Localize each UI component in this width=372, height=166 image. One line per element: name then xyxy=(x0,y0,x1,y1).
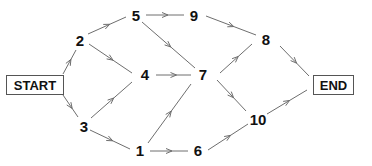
node-2: 2 xyxy=(76,32,84,49)
edge-6-to-10 xyxy=(208,124,248,150)
edges-layer xyxy=(63,13,309,154)
edge-line xyxy=(91,82,132,118)
edge-line xyxy=(148,84,191,143)
edge-1-to-6 xyxy=(150,149,188,154)
edge-7-to-10 xyxy=(217,80,246,111)
edge-5-to-7 xyxy=(142,22,195,68)
edge-8-to-end xyxy=(280,46,309,76)
edge-4-to-7 xyxy=(156,73,191,78)
edge-3-to-4 xyxy=(91,82,132,118)
end-node: END xyxy=(314,76,354,95)
node-4: 4 xyxy=(141,66,150,83)
edge-2-to-4 xyxy=(89,44,132,73)
edge-line xyxy=(90,130,130,149)
node-9: 9 xyxy=(190,7,198,24)
edge-line xyxy=(63,95,78,117)
edge-7-to-8 xyxy=(220,44,252,73)
node-8: 8 xyxy=(262,31,270,48)
node-3: 3 xyxy=(80,118,88,135)
edge-1-to-7 xyxy=(148,84,191,143)
edge-start-to-2 xyxy=(63,50,76,74)
node-5: 5 xyxy=(132,7,140,24)
edge-2-to-5 xyxy=(88,17,126,34)
start-label: START xyxy=(14,78,56,93)
edge-10-to-end xyxy=(267,90,307,114)
edge-line xyxy=(208,124,248,150)
edge-line xyxy=(217,80,246,111)
node-6: 6 xyxy=(194,142,202,159)
edge-line xyxy=(63,50,76,74)
edge-line xyxy=(206,16,256,35)
edge-line xyxy=(220,44,252,73)
edge-line xyxy=(142,22,195,68)
edge-line xyxy=(89,44,132,73)
arrowhead-icon xyxy=(283,100,289,105)
node-7: 7 xyxy=(199,66,207,83)
node-1: 1 xyxy=(136,142,144,159)
edge-line xyxy=(280,46,309,76)
edge-start-to-3 xyxy=(63,95,78,117)
arrowhead-icon xyxy=(224,135,230,140)
edge-3-to-1 xyxy=(90,130,130,149)
edge-line xyxy=(267,90,307,114)
end-label: END xyxy=(320,78,347,93)
network-diagram: START END 12345678910 xyxy=(0,0,372,166)
node-10: 10 xyxy=(250,111,267,128)
edge-5-to-9 xyxy=(146,13,184,18)
edge-line xyxy=(88,17,126,34)
start-node: START xyxy=(7,76,64,95)
terminal-boxes-layer: START END xyxy=(7,76,354,95)
edge-9-to-8 xyxy=(206,16,256,35)
